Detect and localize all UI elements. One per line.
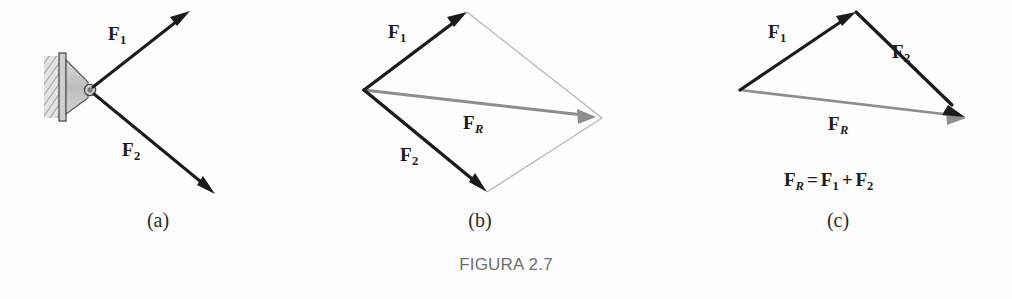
- label-f1: F1: [388, 22, 406, 44]
- label-f2: F2: [400, 145, 418, 167]
- figure-2-7: F1 F2 (a): [0, 0, 1012, 299]
- vector-f2: [364, 90, 487, 192]
- label-f2: F2: [892, 42, 910, 64]
- construction-lines: [467, 12, 602, 192]
- panel-b-caption: (b): [450, 210, 510, 230]
- label-f1: F1: [108, 24, 126, 46]
- wall-hatch: [44, 56, 60, 118]
- panel-c-caption: (c): [808, 210, 868, 230]
- panel-b-parallelogram-law: F1 F2 FR (b): [330, 0, 680, 245]
- mounting-plate: [59, 53, 66, 121]
- vector-f2: [856, 12, 965, 117]
- label-f2: F2: [122, 140, 140, 162]
- resultant-equation: FR=F1+F2: [784, 170, 873, 192]
- panel-c-triangle-rule: F1 F2 FR FR=F1+F2 (c): [680, 0, 1012, 245]
- label-fr: FR: [828, 114, 848, 136]
- panel-a-bracket-forces: F1 F2 (a): [0, 0, 340, 245]
- label-f1: F1: [768, 22, 786, 44]
- label-fr: FR: [463, 113, 483, 135]
- vector-f1: [364, 12, 467, 90]
- figure-title: FIGURA 2.7: [0, 256, 1012, 273]
- panel-a-drawing: [0, 0, 340, 245]
- vector-f1: [740, 12, 856, 90]
- panel-b-drawing: [330, 0, 680, 245]
- pin-hole: [88, 88, 92, 92]
- panel-a-caption: (a): [128, 210, 188, 230]
- vector-f2: [94, 94, 215, 194]
- vector-fr: [740, 90, 966, 125]
